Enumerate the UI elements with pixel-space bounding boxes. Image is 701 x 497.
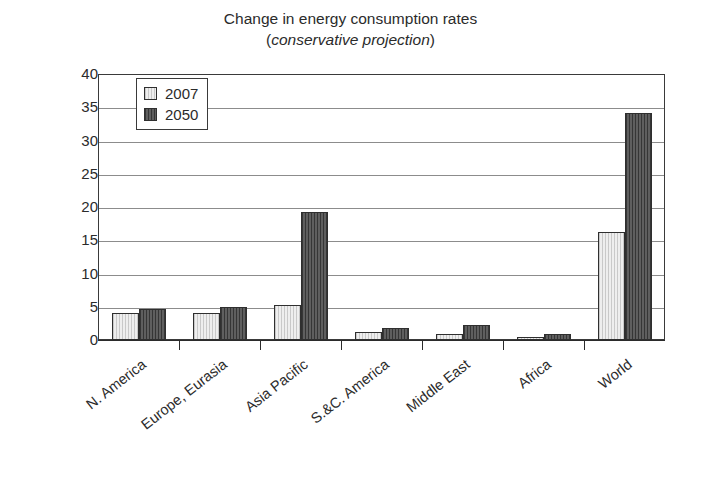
y-tick-label-0: 0 [64,331,98,348]
x-axis-label-middle-east: Middle East [305,356,472,492]
chart-title: Change in energy consumption rates (cons… [0,8,701,50]
y-tick-label-25: 25 [64,165,98,182]
x-axis-label-africa: Africa [386,356,553,492]
gridline-20 [99,208,664,209]
x-axis-label-asia-pacific: Asia Pacific [143,356,310,492]
legend-label-2007: 2007 [165,86,198,101]
legend-swatch-2007-icon [144,87,157,100]
gridline-30 [99,142,664,143]
chart-subtitle: (conservative projection) [0,29,701,50]
y-axis-ticks: 4035302520151050 [52,74,98,340]
y-tick-label-30: 30 [64,132,98,149]
y-tick-label-35: 35 [64,98,98,115]
x-axis-line [98,340,665,341]
legend-item-2007[interactable]: 2007 [144,83,198,104]
legend-item-2050[interactable]: 2050 [144,104,198,125]
y-tick-label-5: 5 [64,298,98,315]
legend-label-2050: 2050 [165,107,198,122]
legend-swatch-2050-icon [144,108,157,121]
chart-subtitle-paren-close: ) [430,31,435,48]
x-axis-label-europe-eurasia: Europe, Eurasia [62,356,229,492]
x-axis-label-s-c-america: S.&C. America [224,356,391,492]
gridline-5 [99,308,664,309]
x-axis-tick-6 [584,341,585,350]
x-axis-tick-2 [260,341,261,350]
y-tick-label-40: 40 [64,65,98,82]
x-axis-label-world: World [467,356,634,492]
y-tick-label-15: 15 [64,231,98,248]
chart-title-line1: Change in energy consumption rates [0,8,701,29]
x-axis-tick-4 [422,341,423,350]
gridline-10 [99,275,664,276]
chart-legend: 2007 2050 [136,78,208,130]
y-tick-label-10: 10 [64,265,98,282]
gridline-15 [99,241,664,242]
x-axis-tick-1 [179,341,180,350]
gridline-25 [99,175,664,176]
chart-subtitle-text: conservative projection [271,31,430,48]
y-tick-label-20: 20 [64,198,98,215]
x-axis-tick-3 [341,341,342,350]
x-axis-tick-5 [503,341,504,350]
